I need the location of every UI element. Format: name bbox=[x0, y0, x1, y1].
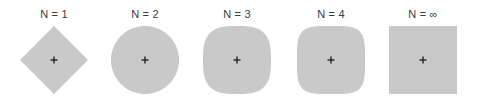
superellipse-shape bbox=[193, 24, 281, 101]
panel-n3: N = 3 bbox=[193, 0, 281, 101]
panel-n-infinity: N = ∞ bbox=[379, 0, 467, 101]
panel-n4: N = 4 bbox=[287, 0, 375, 101]
panel-label: N = 4 bbox=[287, 8, 375, 21]
circle-shape bbox=[101, 24, 189, 101]
superellipse-shape bbox=[287, 24, 375, 101]
square-shape bbox=[379, 24, 467, 101]
panel-label: N = 2 bbox=[101, 8, 189, 21]
panel-label: N = 3 bbox=[193, 8, 281, 21]
diamond-shape bbox=[10, 24, 98, 101]
panel-label: N = ∞ bbox=[379, 8, 467, 21]
panel-n2: N = 2 bbox=[101, 0, 189, 101]
panel-n1: N = 1 bbox=[10, 0, 98, 101]
panel-label: N = 1 bbox=[10, 8, 98, 21]
